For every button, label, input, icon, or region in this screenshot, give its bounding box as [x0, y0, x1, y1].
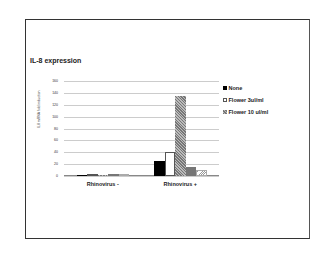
bar	[175, 96, 186, 176]
chart-title: IL-8 expression	[30, 57, 81, 64]
gridline	[64, 105, 219, 106]
bar	[196, 170, 207, 176]
bar	[87, 174, 98, 176]
bar	[108, 174, 119, 176]
gridline	[64, 152, 219, 153]
legend-swatch-icon	[223, 98, 227, 102]
legend-label: Flower 3ul/ml	[229, 97, 264, 103]
legend-label: Flower 10 ul/ml	[229, 109, 269, 115]
legend-swatch-icon	[223, 110, 227, 114]
legend: NoneFlower 3ul/mlFlower 10 ul/ml	[223, 85, 273, 121]
gridline	[64, 164, 219, 165]
gridline	[64, 93, 219, 94]
plot-area: 020406080100120140160	[64, 81, 219, 176]
bar	[119, 174, 130, 176]
y-tick-label: 100	[52, 115, 58, 119]
y-tick-label: 20	[54, 162, 58, 166]
bar	[165, 152, 176, 176]
legend-swatch-icon	[223, 86, 227, 90]
bar	[98, 175, 109, 176]
legend-label: None	[229, 85, 243, 91]
gridline	[64, 176, 219, 177]
gridline	[64, 81, 219, 82]
legend-item: Flower 10 ul/ml	[223, 109, 273, 115]
legend-item: Flower 3ul/ml	[223, 97, 273, 103]
gridline	[64, 140, 219, 141]
bar	[186, 167, 197, 177]
y-tick-label: 140	[52, 91, 58, 95]
y-tick-label: 0	[56, 174, 58, 178]
legend-item: None	[223, 85, 273, 91]
y-tick-label: 60	[54, 138, 58, 142]
gridline	[64, 129, 219, 130]
gridline	[64, 117, 219, 118]
y-tick-label: 40	[54, 150, 58, 154]
y-tick-label: 160	[52, 79, 58, 83]
bar	[154, 161, 165, 176]
y-tick-label: 120	[52, 103, 58, 107]
y-axis-label: IL8 mRNA fold induction	[37, 90, 41, 128]
x-tick-label: Rhinovirus -	[87, 181, 119, 187]
y-tick-label: 80	[54, 127, 58, 131]
bar	[77, 175, 88, 176]
x-tick-label: Rhinovirus +	[164, 181, 197, 187]
